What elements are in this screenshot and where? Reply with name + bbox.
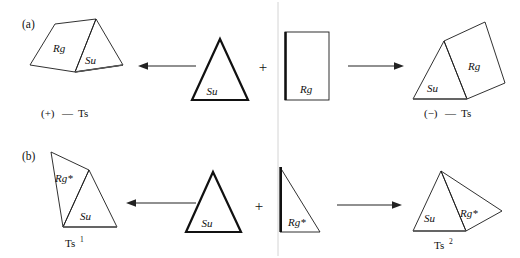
panel-label-a: (a): [22, 18, 35, 31]
label-rg-star-b-left: Rg*: [54, 172, 73, 184]
label-rg-a-left: Rg: [52, 42, 66, 54]
label-su-a-right: Su: [427, 82, 439, 94]
caption-a-right-dash: —: [444, 107, 457, 119]
panel-a-product-left: [30, 19, 123, 72]
label-su-a-left: Su: [85, 54, 97, 66]
caption-b-right: Ts 2: [434, 237, 453, 251]
shape-base-highlight-a-left: [75, 65, 123, 72]
caption-a-right: (−) — Ts: [424, 107, 471, 120]
label-su-a-center: Su: [207, 85, 219, 97]
arrow-b-right: [337, 201, 402, 209]
caption-b-left-sup: 1: [80, 235, 84, 244]
shape-su-triangle-a-center: [192, 39, 248, 100]
label-rg-a-rect: Rg: [299, 83, 313, 95]
label-su-b-right: Su: [424, 212, 436, 224]
figure-root: (a) (b) Rg Su (+) — Ts Su + Rg Su Rg (−)…: [0, 0, 520, 258]
label-su-b-left: Su: [80, 210, 92, 222]
caption-a-left: (+) — Ts: [41, 107, 88, 120]
shape-su-face-a-right: [413, 41, 467, 99]
shape-rg-star-face-b-right: [441, 171, 502, 231]
arrow-a-left-head: [138, 62, 148, 70]
caption-b-left-term: Ts: [65, 237, 75, 249]
label-rg-star-b-rect: Rg*: [287, 216, 306, 228]
arrow-a-left: [138, 62, 196, 70]
caption-a-left-dash: —: [61, 107, 74, 119]
operator-plus-b: +: [255, 198, 263, 214]
caption-a-right-term: Ts: [461, 107, 471, 119]
arrow-b-left-head: [126, 199, 136, 207]
label-su-b-center: Su: [202, 217, 214, 229]
caption-a-right-sign: (−): [424, 107, 438, 120]
label-rg-star-b-right: Rg*: [459, 207, 478, 219]
shape-su-face-b-right: [413, 171, 466, 231]
panel-label-b: (b): [22, 150, 36, 163]
operator-plus-a: +: [259, 59, 267, 75]
label-rg-a-right: Rg: [467, 60, 481, 72]
caption-b-left: Ts 1: [65, 235, 84, 249]
caption-a-left-term: Ts: [78, 107, 88, 119]
arrow-b-right-head: [392, 201, 402, 209]
caption-b-right-sup: 2: [449, 237, 453, 246]
arrow-b-left: [126, 199, 196, 207]
arrow-a-right: [348, 62, 404, 70]
shape-su-face-a-left: [75, 19, 123, 72]
shape-su-triangle-b-center: [186, 172, 241, 232]
caption-b-right-term: Ts: [434, 239, 444, 251]
caption-a-left-sign: (+): [41, 107, 55, 120]
arrow-a-right-head: [394, 62, 404, 70]
diagram-canvas: (a) (b) Rg Su (+) — Ts Su + Rg Su Rg (−)…: [0, 0, 520, 258]
